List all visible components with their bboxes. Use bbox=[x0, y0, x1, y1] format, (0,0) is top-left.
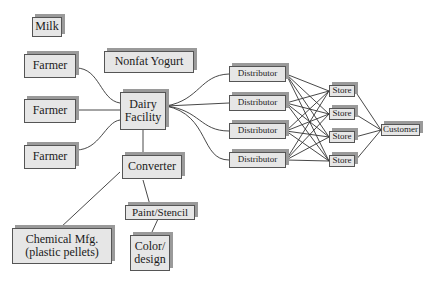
supply-chain-diagram: Milk Farmer Farmer Farmer Nonfat Yogurt … bbox=[0, 0, 437, 283]
node-dairy-facility: Dairy Facility bbox=[120, 92, 166, 130]
node-distributor-2: Distributor bbox=[229, 95, 286, 111]
node-distributor-3: Distributor bbox=[229, 123, 286, 139]
node-color-design: Color/ design bbox=[130, 235, 170, 271]
node-customer: Customer bbox=[381, 124, 420, 136]
node-store-4: Store bbox=[329, 155, 355, 167]
node-converter: Converter bbox=[122, 155, 182, 179]
node-distributor-1: Distributor bbox=[229, 66, 286, 82]
node-chemical-mfg: Chemical Mfg. (plastic pellets) bbox=[12, 228, 112, 264]
node-distributor-4: Distributor bbox=[229, 152, 286, 168]
node-farmer-2: Farmer bbox=[24, 99, 76, 123]
node-nonfat-yogurt: Nonfat Yogurt bbox=[104, 51, 194, 73]
node-paint-stencil: Paint/Stencil bbox=[125, 205, 195, 220]
node-milk: Milk bbox=[32, 17, 62, 37]
node-farmer-3: Farmer bbox=[24, 145, 76, 169]
node-store-1: Store bbox=[329, 85, 355, 97]
node-store-2: Store bbox=[329, 108, 355, 120]
node-store-3: Store bbox=[329, 131, 355, 143]
node-farmer-1: Farmer bbox=[24, 54, 76, 78]
